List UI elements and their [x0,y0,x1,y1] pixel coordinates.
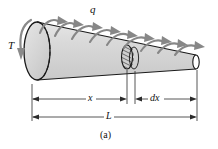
dimension-arrowheads [32,97,197,120]
q-arrowhead-9 [194,41,205,50]
label-dimension-L: L [106,111,112,121]
label-distributed-torque-q: q [90,4,96,15]
arrowhead-L-right [190,115,197,120]
figure-drawing [0,0,218,149]
right-end-ellipse [193,55,199,69]
left-end-face [24,22,50,80]
label-dimension-x: x [88,93,92,103]
label-applied-torque-T: T [8,40,14,51]
arrowhead-x-right [120,97,127,102]
figure-caption: (a) [100,130,111,140]
arrowhead-L-left [32,115,39,120]
arrowhead-x-left [32,97,39,102]
q-arrowhead-3 [92,22,103,31]
right-end-face [193,55,199,69]
arrowhead-dx-right [190,97,197,102]
figure-tapered-shaft-distributed-torque: q T x dx L (a) [0,0,218,149]
arrowhead-dx-left [135,97,142,102]
label-dimension-dx: dx [150,93,159,103]
left-end-ellipse [24,22,50,80]
